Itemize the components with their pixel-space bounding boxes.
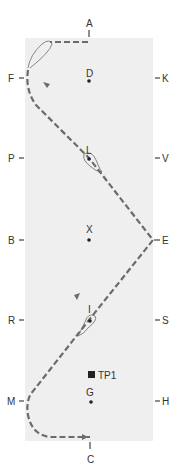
letter-k: K — [162, 73, 169, 84]
letter-g: G — [86, 387, 94, 398]
letter-h: H — [162, 396, 169, 407]
letter-r: R — [8, 315, 15, 326]
test-point-square-icon — [88, 371, 95, 378]
letter-p: P — [8, 153, 15, 164]
letter-i: I — [88, 304, 91, 315]
marker-i — [88, 319, 92, 323]
test-point-label: TP1 — [98, 370, 117, 381]
letter-a: A — [86, 18, 93, 29]
letter-m: M — [7, 396, 15, 407]
letter-d: D — [86, 68, 93, 79]
letter-x: X — [86, 224, 93, 235]
marker-g — [89, 400, 93, 404]
letter-l: L — [86, 145, 92, 156]
marker-d — [87, 79, 91, 83]
marker-l — [87, 157, 91, 161]
marker-x — [87, 238, 91, 242]
letter-f: F — [8, 73, 14, 84]
letter-c: C — [87, 454, 94, 465]
letter-v: V — [162, 153, 169, 164]
arena-diagram: TP1 A C F K P V B E R S M H D L X I G — [0, 0, 180, 473]
letter-e: E — [162, 235, 169, 246]
letter-s: S — [162, 315, 169, 326]
letter-b: B — [8, 235, 15, 246]
